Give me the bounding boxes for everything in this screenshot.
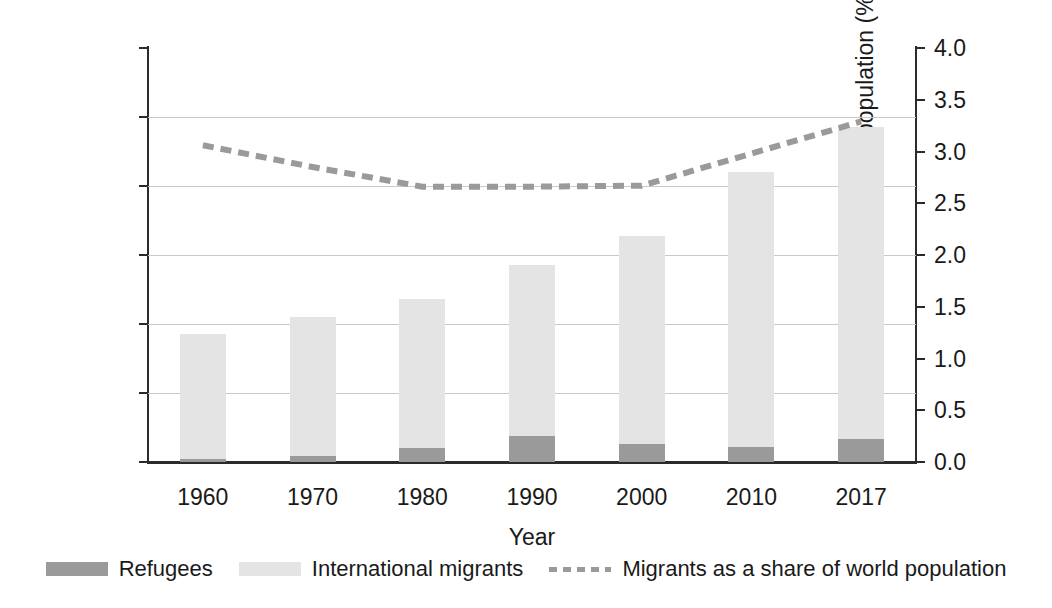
- x-axis-tick-label: 1990: [472, 484, 592, 511]
- legend-item[interactable]: Migrants as a share of world population: [549, 556, 1006, 582]
- left-axis-tick: [139, 323, 148, 325]
- left-axis-tick: [139, 185, 148, 187]
- x-axis-tick-label: 2010: [691, 484, 811, 511]
- legend-swatch-icon: [239, 562, 301, 576]
- x-axis-tick-label: 2000: [582, 484, 702, 511]
- x-axis-tick-label: 1960: [143, 484, 263, 511]
- x-axis-tick-label: 2017: [801, 484, 921, 511]
- right-axis-tick-label: 2.0: [934, 242, 966, 269]
- right-axis-tick: [916, 99, 925, 101]
- legend-item[interactable]: International migrants: [239, 556, 524, 582]
- right-axis-tick: [916, 254, 925, 256]
- legend-label: International migrants: [312, 556, 524, 582]
- right-axis-tick-label: 1.5: [934, 293, 966, 320]
- right-axis-tick: [916, 202, 925, 204]
- plot-area: 0501001502002503000.00.51.01.52.02.53.03…: [148, 48, 916, 462]
- right-axis-tick-label: 0.0: [934, 449, 966, 476]
- right-axis-tick-label: 4.0: [934, 35, 966, 62]
- right-axis-tick-label: 3.0: [934, 138, 966, 165]
- right-axis-tick-label: 1.0: [934, 345, 966, 372]
- right-axis-tick: [916, 409, 925, 411]
- chart-legend: RefugeesInternational migrantsMigrants a…: [0, 556, 1052, 582]
- right-axis-tick-label: 3.5: [934, 86, 966, 113]
- right-axis-tick-label: 0.5: [934, 397, 966, 424]
- right-axis-tick: [916, 151, 925, 153]
- left-axis-tick: [139, 254, 148, 256]
- x-axis-tick-label: 1970: [253, 484, 373, 511]
- right-axis-tick: [916, 461, 925, 463]
- right-axis-tick: [916, 47, 925, 49]
- right-axis-tick: [916, 358, 925, 360]
- right-axis-tick-label: 2.5: [934, 190, 966, 217]
- legend-item[interactable]: Refugees: [46, 556, 213, 582]
- right-axis-tick: [916, 306, 925, 308]
- legend-label: Refugees: [119, 556, 213, 582]
- legend-swatch-icon: [46, 562, 108, 576]
- legend-label: Migrants as a share of world population: [622, 556, 1006, 582]
- left-axis-tick: [139, 461, 148, 463]
- left-axis-tick: [139, 47, 148, 49]
- left-axis-tick: [139, 116, 148, 118]
- chart-figure: International migrants (millions) Migran…: [0, 0, 1052, 608]
- x-axis-tick-label: 1980: [362, 484, 482, 511]
- legend-dashed-line-icon: [549, 562, 611, 576]
- share-of-world-population-line: [148, 48, 916, 462]
- x-axis-title: Year: [148, 524, 916, 551]
- left-axis-tick: [139, 392, 148, 394]
